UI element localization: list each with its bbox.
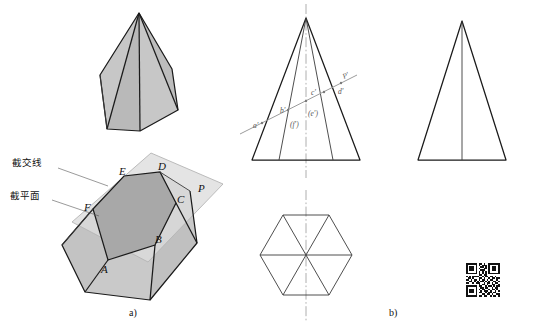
side-view: [418, 21, 506, 160]
vertex-label-B: B: [155, 233, 162, 245]
front-view: a' b' (f') (e') c' d' P': [240, 4, 360, 178]
point-c-prime: [323, 91, 325, 93]
label-P-prime: P': [340, 70, 351, 81]
point-b-prime: [287, 109, 289, 111]
label-a-prime: a': [253, 121, 259, 130]
label-e-prime: (e'): [308, 109, 318, 118]
vertex-label-C: C: [177, 193, 185, 205]
label-d-prime: d': [338, 87, 344, 96]
annotation-intersection-line: 截交线: [12, 157, 42, 168]
leader-intersection-line: [58, 168, 108, 186]
label-c-prime: c': [311, 88, 316, 97]
point-a-prime: [261, 122, 263, 124]
vertex-label-A: A: [100, 263, 108, 275]
point-d-prime: [340, 82, 342, 84]
pictorial-cut-pyramid: A B C D E F P 截交线 截平面: [10, 153, 223, 300]
caption-a: a): [129, 307, 137, 319]
top-view: [260, 190, 352, 322]
front-view-edge-left: [279, 18, 306, 160]
vertex-label-D: D: [157, 160, 166, 172]
pictorial-whole-pyramid: [100, 13, 178, 131]
plane-label-P: P: [197, 182, 205, 194]
qr-code[interactable]: [466, 263, 500, 297]
label-f-prime: (f'): [290, 120, 299, 129]
label-b-prime: b': [280, 106, 286, 115]
vertex-label-E: E: [118, 165, 126, 177]
figure-canvas: A B C D E F P 截交线 截平面 a' b' (f') (e') c'…: [0, 0, 534, 329]
annotation-cutting-plane: 截平面: [10, 190, 40, 201]
caption-b: b): [389, 307, 397, 319]
engineering-drawing: A B C D E F P 截交线 截平面 a' b' (f') (e') c'…: [0, 0, 534, 329]
point-f-e-prime: [305, 100, 307, 102]
